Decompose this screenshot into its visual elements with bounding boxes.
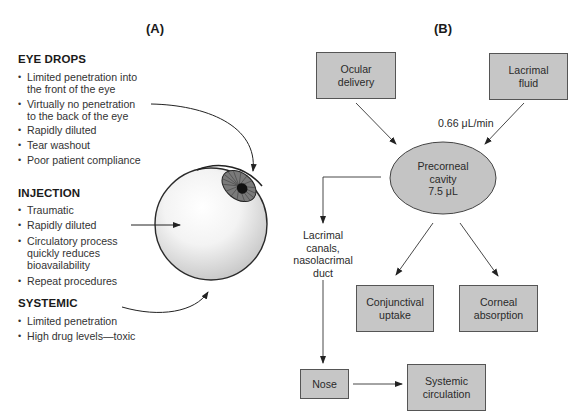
eye-drops-item: Tear washout: [18, 139, 90, 151]
corneal-absorption-box: Corneal absorption: [459, 285, 538, 332]
bullet-line: Virtually no penetration: [27, 98, 135, 110]
bullet-line: Poor patient compliance: [27, 154, 141, 166]
bullet-line: Tear washout: [27, 139, 90, 151]
ocular-delivery-box: Ocular delivery: [316, 52, 396, 99]
injection-item: Rapidly diluted: [18, 219, 97, 231]
precorneal-cavity-label: Precorneal cavity 7.5 μL: [393, 160, 493, 198]
eye-drops-item: Virtually no penetration to the back of …: [18, 98, 135, 122]
node-label: cavity: [393, 173, 493, 186]
injection-item: Circulatory process quickly reduces bioa…: [18, 235, 118, 272]
bullet-line: Limited penetration into: [27, 71, 137, 83]
bullet-line: the front of the eye: [27, 83, 137, 95]
node-label: Lacrimal: [288, 229, 358, 242]
eye-drops-arrow: [151, 104, 253, 171]
bullet-line: High drug levels—toxic: [27, 330, 135, 342]
bullet-line: Rapidly diluted: [27, 124, 97, 136]
node-label: circulation: [423, 388, 471, 401]
node-label: Precorneal: [393, 160, 493, 173]
panel-b-title: (B): [434, 21, 452, 36]
cavity-to-conjunctival-arrow: [396, 223, 433, 275]
conjunctival-uptake-box: Conjunctival uptake: [356, 285, 434, 332]
eye-drops-heading: EYE DROPS: [18, 53, 86, 65]
bullet-line: Rapidly diluted: [27, 219, 97, 231]
node-label: delivery: [338, 76, 375, 89]
drainage-label: Lacrimal canals, nasolacrimal duct: [288, 229, 358, 279]
node-label: Nose: [312, 378, 337, 391]
injection-item: Traumatic: [18, 204, 74, 216]
systemic-item: Limited penetration: [18, 315, 117, 327]
bullet-line: Circulatory process: [27, 235, 118, 247]
node-label: Corneal: [474, 296, 523, 309]
bullet-line: bioavailability: [27, 259, 118, 271]
cavity-to-drain-arrow: [323, 177, 381, 223]
systemic-item: High drug levels—toxic: [18, 330, 135, 342]
nose-box: Nose: [300, 369, 349, 399]
node-label: Systemic: [423, 375, 471, 388]
injection-heading: INJECTION: [18, 187, 80, 199]
node-label: canals,: [288, 242, 358, 255]
node-label: 7.5 μL: [393, 185, 493, 198]
bullet-line: Repeat procedures: [27, 275, 117, 287]
node-label: uptake: [366, 309, 424, 322]
eye-drops-item: Rapidly diluted: [18, 124, 97, 136]
flow-rate-label: 0.66 μL/min: [438, 117, 494, 129]
eye-drops-item: Poor patient compliance: [18, 154, 141, 166]
panel-a-title: (A): [146, 21, 164, 36]
systemic-circulation-box: Systemic circulation: [407, 364, 486, 411]
eyeball-icon: [155, 164, 267, 280]
node-label: absorption: [474, 309, 523, 322]
eye-drops-item: Limited penetration into the front of th…: [18, 71, 137, 95]
bullet-line: Limited penetration: [27, 315, 117, 327]
lacrimal-fluid-box: Lacrimal fluid: [489, 53, 568, 100]
node-label: Lacrimal: [508, 64, 548, 77]
systemic-heading: SYSTEMIC: [18, 297, 78, 309]
node-label: Conjunctival: [366, 296, 424, 309]
cavity-to-corneal-arrow: [460, 223, 498, 276]
injection-item: Repeat procedures: [18, 275, 117, 287]
bullet-line: Traumatic: [27, 204, 74, 216]
node-label: duct: [288, 267, 358, 280]
systemic-arrow: [122, 292, 208, 312]
node-label: nasolacrimal: [288, 254, 358, 267]
bullet-line: quickly reduces: [27, 247, 118, 259]
bullet-line: to the back of the eye: [27, 110, 135, 122]
ocular-to-cavity-arrow: [356, 103, 396, 144]
node-label: fluid: [508, 77, 548, 90]
node-label: Ocular: [338, 63, 375, 76]
